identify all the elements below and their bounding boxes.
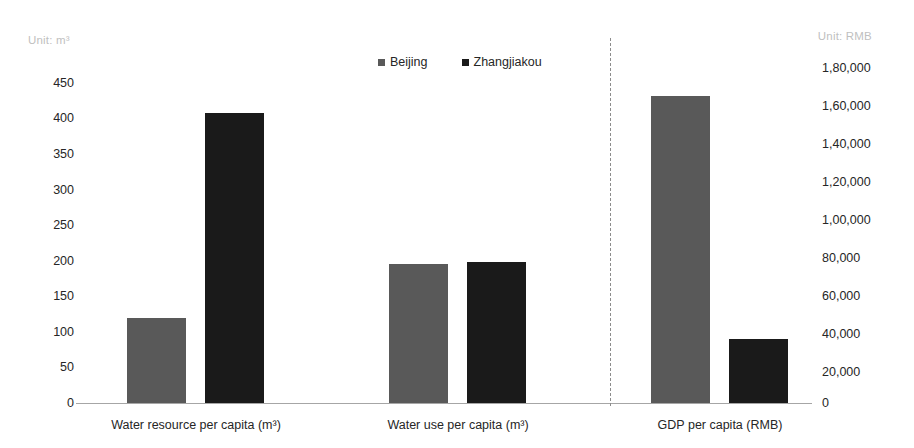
category-label-gdp-text: GDP per capita (RMB) (658, 418, 783, 432)
bar-beijing-water-use[interactable] (389, 264, 448, 403)
category-label-water-resource: Water resource per capita (m³) (111, 418, 281, 432)
x-axis-baseline (76, 403, 812, 404)
category-label-water-resource-text: Water resource per capita (m³) (111, 418, 281, 432)
bar-beijing-gdp[interactable] (651, 96, 710, 403)
bar-zhangjiakou-water-resource[interactable] (205, 113, 264, 403)
bar-zhangjiakou-gdp[interactable] (729, 339, 788, 403)
category-label-water-use: Water use per capita (m³) (387, 418, 528, 432)
plot-area (0, 0, 914, 448)
category-label-water-use-text: Water use per capita (m³) (387, 418, 528, 432)
grouped-bar-chart: Unit: m³ Unit: RMB Beijing Zhangjiakou 4… (0, 0, 914, 448)
bar-zhangjiakou-water-use[interactable] (467, 262, 526, 403)
bar-beijing-water-resource[interactable] (127, 318, 186, 403)
category-label-gdp: GDP per capita (RMB) (658, 418, 783, 432)
panel-divider-dashed-line (610, 38, 611, 406)
